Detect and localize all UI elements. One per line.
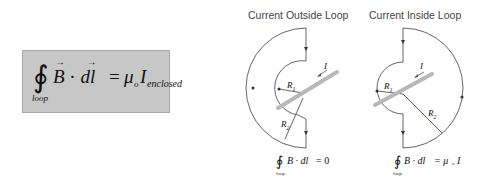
loop-subscript-outside: loop — [276, 171, 285, 176]
current-label-inside: I — [420, 61, 423, 71]
r1-label-outside: R1 — [287, 80, 296, 92]
outside-loop-diagram — [246, 28, 306, 148]
lhs-outside: B · dl — [287, 155, 308, 166]
r2-label-outside: R2 — [281, 119, 290, 131]
r1-label-inside: R1 — [384, 81, 393, 93]
current-inside: I — [457, 155, 460, 166]
rhs-inside: = μ — [434, 155, 448, 166]
mu-sub-inside: o — [452, 161, 455, 166]
integral-inside: ∮ — [394, 153, 401, 170]
r2-label-inside: R2 — [428, 108, 437, 120]
outside-loop-arrows — [252, 47, 309, 135]
loop-subscript-inside: loop — [393, 171, 402, 176]
lhs-inside: B · dl — [404, 155, 425, 166]
current-label-outside: I — [324, 61, 327, 71]
integral-outside: ∮ — [276, 153, 283, 170]
rhs-outside: = 0 — [316, 155, 329, 166]
